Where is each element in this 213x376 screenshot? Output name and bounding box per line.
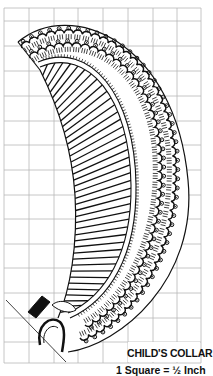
scale-note: 1 Square = ½ Inch [116, 364, 206, 376]
collar-shape [6, 25, 189, 362]
pattern-title: CHILD'S COLLAR [127, 347, 212, 359]
